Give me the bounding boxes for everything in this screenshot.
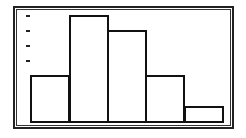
- y-axis-tick-mark: [26, 45, 30, 47]
- histogram-bar: [30, 75, 70, 123]
- histogram-bar: [107, 30, 147, 123]
- histogram-plot-area: [0, 0, 246, 138]
- histogram-bar: [69, 15, 109, 123]
- y-axis-tick-mark: [26, 30, 30, 32]
- y-axis-tick-mark: [26, 15, 30, 17]
- histogram-bar: [145, 75, 185, 123]
- histogram-bar: [184, 106, 224, 123]
- y-axis-tick-mark: [26, 60, 30, 62]
